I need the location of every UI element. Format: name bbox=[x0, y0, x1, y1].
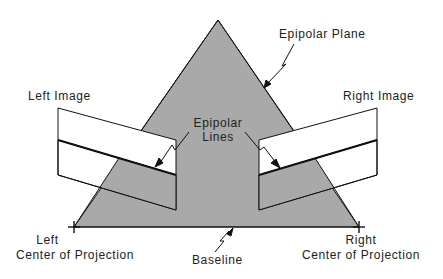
epipolar-plane-arrow-icon bbox=[264, 44, 294, 88]
left-cop-label-line2: Center of Projection bbox=[14, 248, 136, 263]
right-cop-label: Right Center of Projection bbox=[300, 233, 422, 263]
right-cop-label-line1: Right bbox=[300, 233, 422, 248]
epipolar-lines-label: Epipolar Lines bbox=[192, 116, 244, 144]
left-cop-label: Left Center of Projection bbox=[14, 233, 136, 263]
left-image-label: Left Image bbox=[28, 89, 91, 103]
right-cop-label-line2: Center of Projection bbox=[300, 248, 422, 263]
epipolar-lines-label-line1: Epipolar bbox=[192, 116, 244, 130]
epipolar-lines-label-line2: Lines bbox=[192, 130, 244, 144]
left-cop-label-line1: Left bbox=[14, 233, 136, 248]
right-image-label: Right Image bbox=[343, 89, 414, 103]
epipolar-plane-label: Epipolar Plane bbox=[279, 27, 365, 41]
baseline-arrow-icon bbox=[215, 228, 233, 252]
baseline-label: Baseline bbox=[192, 253, 243, 267]
